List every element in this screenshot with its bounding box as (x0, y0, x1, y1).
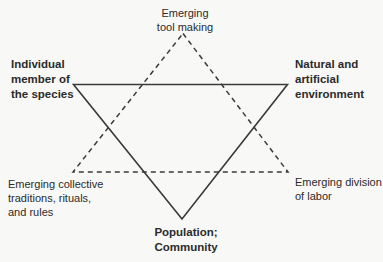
dashed-upward-triangle (73, 34, 288, 173)
label-emerging-tool-making: Emerging tool making (157, 6, 213, 34)
label-population-community: Population; Community (154, 225, 217, 255)
label-natural-and-artificial-environment: Natural and artificial environment (295, 57, 364, 102)
activity-diagram: Emerging tool making Individual member o… (0, 0, 383, 262)
star-triangles-figure (0, 0, 383, 262)
label-individual-member-of-the-species: Individual member of the species (11, 57, 74, 102)
label-emerging-division-of-labor: Emerging division of labor (295, 175, 382, 203)
label-emerging-collective-traditions-rituals-and-rules: Emerging collective traditions, rituals,… (8, 177, 103, 219)
solid-downward-triangle (74, 85, 288, 220)
